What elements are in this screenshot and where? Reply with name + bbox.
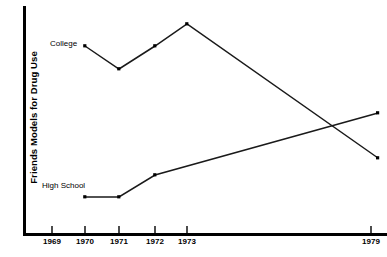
x-tick-label-1970: 1970 [76,237,94,246]
x-tick-label-1973: 1973 [178,237,196,246]
data-point-high-school-1970 [83,195,86,198]
series-annotation-college: College [50,39,77,48]
series-line-college [85,24,378,158]
x-tick-label-1971: 1971 [110,237,128,246]
series-annotation-high-school: High School [42,181,85,190]
x-tick-label-1969: 1969 [43,237,61,246]
data-point-high-school-1971 [117,195,120,198]
data-point-high-school-1979 [376,111,379,114]
series-markers-college [83,22,379,159]
data-point-college-1970 [83,44,86,47]
series-line-high-school [85,113,378,197]
data-point-college-1971 [117,67,120,70]
data-point-high-school-1972 [153,173,156,176]
x-tick-label-1972: 1972 [146,237,164,246]
chart-container: Friends Models for Drug Use [0,0,387,257]
data-point-college-1973 [185,22,188,25]
x-tick-label-1979: 1979 [362,237,380,246]
data-point-college-1979 [376,156,379,159]
data-point-college-1972 [153,44,156,47]
x-axis-ticks [52,226,371,233]
